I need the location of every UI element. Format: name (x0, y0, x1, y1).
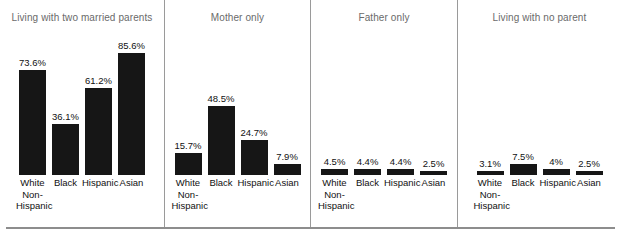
bar-column[interactable]: 15.7% (172, 30, 205, 175)
axis-category-line: White (318, 177, 351, 189)
axis-category-line: Black (507, 177, 540, 189)
bar-value-label: 4% (549, 156, 563, 167)
axis-category-line: White (16, 177, 49, 189)
bar-value-label: 61.2% (85, 75, 112, 86)
bar-value-label: 4.4% (390, 156, 412, 167)
bar[interactable] (175, 153, 202, 175)
axis-category-label: Hispanic (384, 177, 417, 189)
bar-column[interactable]: 7.9% (271, 30, 304, 175)
bar[interactable] (387, 169, 414, 175)
axis-category-line: Non- (16, 189, 49, 201)
bar-value-label: 24.7% (241, 127, 268, 138)
bar-column[interactable]: 4.5% (318, 30, 351, 175)
axis-category-line: Hispanic (540, 177, 573, 189)
bar-column[interactable]: 36.1% (49, 30, 82, 175)
axis-category-label: Asian (271, 177, 304, 189)
axis-category-line: White (474, 177, 507, 189)
axis-category-line: Black (205, 177, 238, 189)
bar[interactable] (118, 53, 145, 175)
axis-category-label: WhiteNon-Hispanic (172, 177, 205, 212)
bar-value-label: 7.5% (512, 151, 534, 162)
chart-panel-1: Living with two married parents73.6%36.1… (0, 0, 164, 228)
axis-category-label: Asian (573, 177, 606, 189)
panel-plot-area: 73.6%36.1%61.2%85.6% (0, 30, 164, 175)
bar[interactable] (321, 169, 348, 175)
bar[interactable] (85, 88, 112, 175)
panel-plot-area: 3.1%7.5%4%2.5% (458, 30, 621, 175)
bar-column[interactable]: 4.4% (351, 30, 384, 175)
panel-title: Living with no parent (458, 12, 621, 23)
axis-category-line: White (172, 177, 205, 189)
chart-panel-3: Father only4.5%4.4%4.4%2.5%WhiteNon-Hisp… (310, 0, 457, 228)
bar-value-label: 2.5% (578, 158, 600, 169)
axis-category-line: Asian (115, 177, 148, 189)
bar-value-label: 85.6% (118, 40, 145, 51)
bar-column[interactable]: 7.5% (507, 30, 540, 175)
panel-row: Living with two married parents73.6%36.1… (0, 0, 621, 228)
bar-column[interactable]: 61.2% (82, 30, 115, 175)
bar[interactable] (274, 164, 301, 175)
bar-column[interactable]: 2.5% (573, 30, 606, 175)
panel-plot-area: 4.5%4.4%4.4%2.5% (311, 30, 457, 175)
panel-plot-area: 15.7%48.5%24.7%7.9% (165, 30, 310, 175)
panel-title: Father only (311, 12, 457, 23)
bar-value-label: 15.7% (175, 140, 202, 151)
axis-category-label: Black (351, 177, 384, 189)
panel-axis-labels: WhiteNon-HispanicBlackHispanicAsian (458, 177, 621, 212)
bar[interactable] (19, 70, 46, 175)
bar[interactable] (241, 140, 268, 175)
axis-category-line: Asian (417, 177, 450, 189)
bar-column[interactable]: 3.1% (474, 30, 507, 175)
bar-column[interactable]: 73.6% (16, 30, 49, 175)
bar[interactable] (543, 169, 570, 175)
bar-value-label: 7.9% (276, 151, 298, 162)
bar-column[interactable]: 85.6% (115, 30, 148, 175)
chart-panel-4: Living with no parent3.1%7.5%4%2.5%White… (457, 0, 621, 228)
bar[interactable] (52, 124, 79, 175)
axis-category-label: WhiteNon-Hispanic (474, 177, 507, 212)
axis-category-line: Hispanic (16, 200, 49, 212)
panel-axis-labels: WhiteNon-HispanicBlackHispanicAsian (165, 177, 310, 212)
axis-category-label: WhiteNon-Hispanic (16, 177, 49, 212)
axis-category-line: Black (351, 177, 384, 189)
bar-value-label: 73.6% (19, 57, 46, 68)
bar-column[interactable]: 4% (540, 30, 573, 175)
axis-category-line: Hispanic (82, 177, 115, 189)
bar-column[interactable]: 24.7% (238, 30, 271, 175)
axis-category-label: Hispanic (540, 177, 573, 189)
axis-category-line: Non- (172, 189, 205, 201)
bar[interactable] (354, 169, 381, 175)
bar-column[interactable]: 48.5% (205, 30, 238, 175)
axis-category-line: Hispanic (474, 200, 507, 212)
chart-figure: Living with two married parents73.6%36.1… (0, 0, 621, 235)
bar-value-label: 48.5% (208, 93, 235, 104)
bar-column[interactable]: 4.4% (384, 30, 417, 175)
bar-value-label: 4.4% (357, 156, 379, 167)
axis-category-line: Asian (271, 177, 304, 189)
axis-category-line: Hispanic (318, 200, 351, 212)
bar-column[interactable]: 2.5% (417, 30, 450, 175)
bar[interactable] (477, 171, 504, 175)
axis-category-line: Non- (318, 189, 351, 201)
panel-title: Living with two married parents (0, 12, 164, 23)
bar[interactable] (208, 106, 235, 175)
axis-category-label: Black (205, 177, 238, 189)
axis-category-line: Hispanic (384, 177, 417, 189)
bar-value-label: 36.1% (52, 111, 79, 122)
footer-divider-rule (6, 227, 615, 229)
chart-panel-2: Mother only15.7%48.5%24.7%7.9%WhiteNon-H… (164, 0, 310, 228)
panel-title: Mother only (165, 12, 310, 23)
axis-category-line: Black (49, 177, 82, 189)
axis-category-line: Hispanic (238, 177, 271, 189)
axis-category-line: Asian (573, 177, 606, 189)
bar[interactable] (576, 171, 603, 175)
axis-category-label: Black (49, 177, 82, 189)
bar[interactable] (510, 164, 537, 175)
axis-category-line: Non- (474, 189, 507, 201)
bar[interactable] (420, 171, 447, 175)
axis-category-label: Black (507, 177, 540, 189)
panel-axis-labels: WhiteNon-HispanicBlackHispanicAsian (311, 177, 457, 212)
axis-category-line: Hispanic (172, 200, 205, 212)
axis-category-label: Asian (115, 177, 148, 189)
panel-axis-labels: WhiteNon-HispanicBlackHispanicAsian (0, 177, 164, 212)
